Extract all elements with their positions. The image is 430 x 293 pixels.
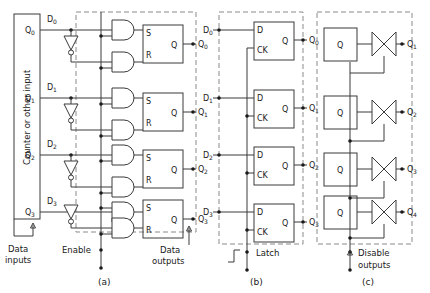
ffb1-ck-dot <box>245 114 249 118</box>
caption-a: (a) <box>98 277 111 287</box>
ffc2-tristate-buffer-icon <box>372 157 396 181</box>
panel-b-ff-2: D 2 D CK Q Q 2 <box>203 147 319 185</box>
bit1-inv-out-wire <box>71 123 112 130</box>
bit1-output-sub: 1 <box>204 111 208 118</box>
bit2-out-dot <box>191 167 195 171</box>
bit0-pin-r: R <box>146 51 152 60</box>
ffb2-in-dot <box>217 153 221 157</box>
panel-c-dashed-boundary <box>317 12 412 244</box>
source-output-sub-0: 0 <box>31 29 35 36</box>
bit0-inv-out-wire <box>71 55 112 62</box>
source-output-sub-3: 3 <box>31 211 35 218</box>
disable-label-line2: outputs <box>358 260 391 270</box>
bit3-out-dot <box>191 217 195 221</box>
disable-bus-terminal-dot <box>348 268 352 272</box>
figure-canvas: Counter or other input Q 0 Q 1 Q 2 Q 3 D… <box>0 0 430 293</box>
data-inputs-label-line2: inputs <box>5 255 32 265</box>
ffc1-out-dot <box>400 110 404 114</box>
bit0-en-top-dot <box>99 34 103 38</box>
data-inputs-label-line1: Data <box>8 244 28 254</box>
panel-b-ff-1: D 1 D CK Q Q 1 <box>203 90 319 128</box>
panel-b: Latch D 0 D CK Q Q 0 D <box>203 12 319 287</box>
bit3-inverter-bubble-icon <box>69 219 74 224</box>
bit1-pin-q: Q <box>171 109 177 118</box>
ffb0-out-dot <box>301 38 305 42</box>
ffc3-enable-wire <box>350 224 384 238</box>
panel-a-bit-3: D 3 S R Q Q 3 <box>40 197 208 238</box>
bit0-pin-s: S <box>146 29 151 38</box>
ffb1-d-sub: 1 <box>209 97 213 104</box>
ffc3-label-q: Q <box>337 209 343 218</box>
bit1-d-sub: 1 <box>53 86 57 93</box>
bit3-en-top-dot <box>99 206 103 210</box>
latch-bus-dot <box>245 250 249 254</box>
bit0-d-sub: 0 <box>53 18 57 25</box>
bit1-gate-bottom-icon <box>112 120 134 140</box>
ffb1-pin-ck: CK <box>257 114 269 123</box>
bit1-inverter-bubble-icon <box>69 118 74 123</box>
ffb3-ck-dot <box>245 228 249 232</box>
bit2-output-sub: 2 <box>204 168 208 175</box>
bit1-out-dot <box>191 110 195 114</box>
ffc3-output-sub: 4 <box>413 211 417 218</box>
ffb3-pin-ck: CK <box>257 228 269 237</box>
caption-b: (b) <box>250 277 263 287</box>
ffb3-d-sub: 3 <box>209 211 213 218</box>
bit2-d-sub: 2 <box>53 143 57 150</box>
panel-b-ff-0: D 0 D CK Q Q 0 <box>203 22 319 60</box>
panel-c-stage-3: Q Q 4 <box>324 196 417 240</box>
bit1-en-bottom-dot <box>99 134 103 138</box>
panel-b-ff-3: D 3 D CK Q Q 3 <box>203 204 319 242</box>
ffb1-in-dot <box>217 96 221 100</box>
ffb3-pin-q: Q <box>282 219 288 228</box>
ffb2-pin-ck: CK <box>257 171 269 180</box>
ffc3-out-dot <box>400 210 404 214</box>
bit1-pin-s: S <box>146 97 151 106</box>
bit1-pin-r: R <box>146 119 152 128</box>
bit2-pin-q: Q <box>171 166 177 175</box>
ffc1-tristate-buffer-icon <box>372 100 396 124</box>
caption-c: (c) <box>362 277 374 287</box>
panel-a-bit-0: D 0 <box>40 15 208 72</box>
ffb2-pin-q: Q <box>282 162 288 171</box>
ffb3-pin-d: D <box>257 208 263 217</box>
ffb0-pin-q: Q <box>282 37 288 46</box>
data-inputs-bracket <box>14 219 33 236</box>
ffc0-tristate-buffer-icon <box>372 32 396 56</box>
bit0-output-sub: 0 <box>204 43 208 50</box>
ffb0-pin-ck: CK <box>257 46 269 55</box>
ffc0-enable-wire <box>350 56 384 73</box>
ffc2-output-sub: 3 <box>413 168 417 175</box>
bit0-gate-bottom-icon <box>112 52 134 72</box>
bit2-inv-out-wire <box>71 180 112 187</box>
source-output-sub-2: 2 <box>31 154 35 161</box>
ffc2-label-q: Q <box>337 166 343 175</box>
ffc1-output-sub: 2 <box>413 111 417 118</box>
panel-c-stage-1: Q Q 2 <box>324 96 417 143</box>
panel-a-bit-1: D 1 S R Q Q <box>40 83 208 140</box>
bit3-pin-s: S <box>146 204 151 213</box>
ffc0-label-q: Q <box>337 41 343 50</box>
ffc0-out-dot <box>400 42 404 46</box>
circuit-diagram-svg: Counter or other input Q 0 Q 1 Q 2 Q 3 D… <box>0 0 430 293</box>
panel-a-bit-2: D 2 S R Q Q <box>40 140 208 197</box>
bit2-gate-top-icon <box>112 145 134 165</box>
ffb2-pin-d: D <box>257 151 263 160</box>
bit0-inverter-bubble-icon <box>69 50 74 55</box>
panel-a-dashed-boundary <box>76 12 196 232</box>
enable-junction-dot <box>99 248 103 252</box>
ffb2-d-sub: 2 <box>209 154 213 161</box>
ffb0-pin-d: D <box>257 26 263 35</box>
ffc1-enable-dot <box>348 139 352 143</box>
ffc2-out-dot <box>400 167 404 171</box>
bit0-pin-q: Q <box>171 41 177 50</box>
ffc3-tristate-buffer-icon <box>372 200 396 224</box>
ffc1-label-q: Q <box>337 109 343 118</box>
latch-bus-terminal-dot <box>245 268 249 272</box>
ffb1-pin-q: Q <box>282 105 288 114</box>
bit3-output-sub: 3 <box>204 218 208 225</box>
bit2-gate-bottom-icon <box>112 177 134 197</box>
latch-label: Latch <box>256 248 279 258</box>
ffb0-d-sub: 0 <box>209 29 213 36</box>
ffb3-out-dot <box>301 220 305 224</box>
